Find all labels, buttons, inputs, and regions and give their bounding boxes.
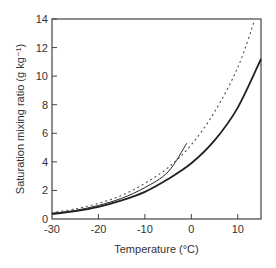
y-tick-label: 10 [36,70,48,82]
x-tick-label: -20 [90,223,106,235]
y-tick-label: 2 [42,184,48,196]
y-tick-label: 4 [42,156,48,168]
chart: -30-20-1001002468101214Temperature (°C)S… [0,0,276,268]
y-tick-label: 14 [36,13,48,25]
y-tick-label: 8 [42,99,48,111]
series-dotted [52,22,254,213]
y-tick-label: 0 [42,213,48,225]
series-solid-thick [52,59,261,214]
x-tick-label: -10 [137,223,153,235]
series-solid-thin [52,143,187,213]
x-axis-title: Temperature (°C) [114,243,198,255]
x-tick-label: 10 [232,223,244,235]
y-axis-title: Saturation mixing ratio (g kg⁻¹) [14,44,26,194]
x-tick-label: 0 [188,223,194,235]
y-tick-label: 12 [36,42,48,54]
y-tick-label: 6 [42,127,48,139]
